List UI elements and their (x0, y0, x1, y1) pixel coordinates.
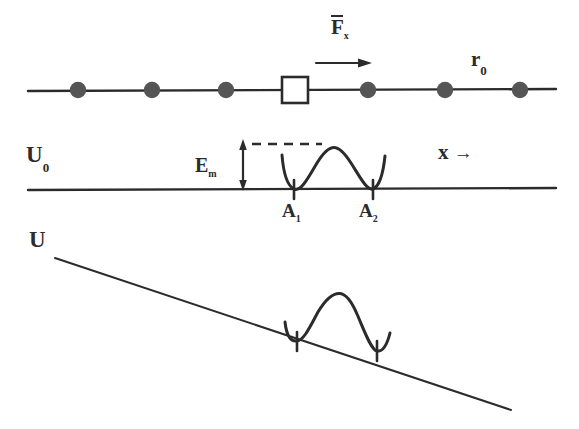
chain-atom (70, 82, 86, 98)
tilted-potential-line (55, 258, 511, 410)
flat-barrier-curve (282, 148, 385, 190)
chain-atom (512, 82, 528, 98)
site-a2-label: A2 (359, 201, 378, 220)
migration-energy-arrow (239, 139, 247, 191)
tilted-potential-symbol: U (29, 227, 46, 252)
site-a2-symbol: A (359, 200, 373, 221)
migration-energy-subscript: m (208, 168, 216, 179)
site-a1-symbol: A (282, 200, 296, 221)
chain-atom (218, 82, 234, 98)
tilted-barrier-curve (285, 293, 390, 351)
migration-energy-symbol: E (195, 154, 208, 176)
panel-flat-potential (28, 139, 556, 199)
x-axis-arrow-icon: → (454, 142, 473, 163)
flat-potential-subscript: 0 (43, 160, 50, 175)
chain-atom (144, 82, 160, 98)
chain-atom (360, 82, 376, 98)
x-axis-symbol: x (438, 140, 449, 164)
x-axis-label: x → (438, 142, 473, 163)
force-subscript: x (344, 30, 349, 41)
panel-tilted-potential (55, 258, 511, 410)
tilted-potential-label: U (29, 228, 46, 251)
site-a1-subscript: 1 (296, 213, 301, 224)
chain-atom (437, 82, 453, 98)
force-label: Fx (331, 17, 349, 38)
force-symbol: F (331, 17, 344, 38)
site-a2-subscript: 2 (373, 213, 378, 224)
migration-energy-label: Em (195, 155, 217, 175)
interstitial-defect-square (282, 77, 308, 103)
flat-potential-symbol: U (26, 142, 43, 167)
lattice-spacing-symbol: r (471, 47, 480, 71)
force-arrow (316, 58, 372, 67)
lattice-spacing-subscript: 0 (480, 63, 487, 78)
lattice-spacing-label: r0 (471, 49, 487, 73)
site-a1-label: A1 (282, 201, 301, 220)
potential-barrier-figure: Fx r0 U0 Em x → A1 A2 U (0, 0, 579, 429)
flat-potential-label: U0 (26, 143, 49, 170)
